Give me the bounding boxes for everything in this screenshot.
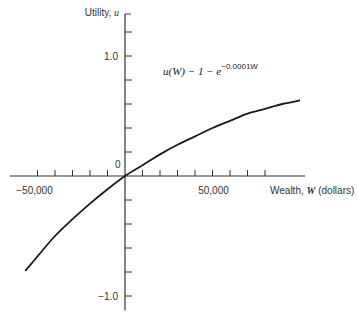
x-tick-label-neg-50000: −50,000	[16, 185, 53, 196]
x-axis-label: Wealth, W (dollars)	[270, 185, 354, 196]
x-tick-label-50000: 50,000	[198, 185, 229, 196]
y-axis-label: Utility, u	[85, 7, 119, 18]
y-tick-label-neg-1: −1.0	[98, 291, 118, 302]
ticks	[38, 32, 266, 296]
utility-chart: Utility, u Wealth, W (dollars) 0 −50,000…	[0, 0, 358, 319]
y-tick-label-1: 1.0	[104, 51, 118, 62]
origin-label: 0	[115, 159, 121, 170]
utility-curve	[25, 100, 300, 270]
equation-annotation: u(W) − 1 − e−0.0001W	[163, 62, 258, 78]
curve-layer	[25, 100, 300, 270]
axes	[10, 14, 305, 310]
